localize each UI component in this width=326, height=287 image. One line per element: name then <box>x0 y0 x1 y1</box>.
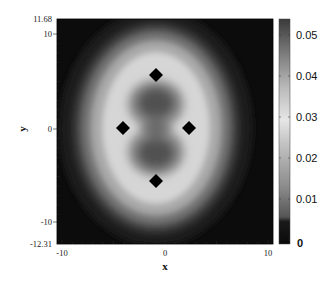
y-tick-label-zero: 0 <box>48 124 52 134</box>
y-tick-label-max: 11.68 <box>33 14 52 24</box>
colorbar-label-0.04: 0.04 <box>296 70 317 82</box>
x-axis-label: x <box>162 260 168 272</box>
colorbar-gradient <box>279 19 290 244</box>
x-tick-label-zero: 0 <box>163 248 167 258</box>
y-tick-label-10: 10 <box>44 29 53 39</box>
colorbar-label-0.05: 0.05 <box>296 29 317 41</box>
x-tick-label-right: 10 <box>264 248 273 258</box>
colorbar: 0.05 0.04 0.03 0.02 0.01 0 <box>279 19 317 249</box>
y-tick-label-min: -12.31 <box>30 239 52 249</box>
y-tick-label-neg10: -10 <box>41 217 52 227</box>
colorbar-label-0.01: 0.01 <box>296 193 317 205</box>
x-tick-label-left: -10 <box>56 248 67 258</box>
colorbar-label-0.03: 0.03 <box>296 111 317 123</box>
plot-area <box>57 10 273 246</box>
y-axis-label: y <box>16 126 28 132</box>
contour-figure: -10 0 10 x 11.68 10 0 -10 -12.31 y <box>0 0 326 287</box>
colorbar-label-0: 0 <box>297 237 303 249</box>
colorbar-label-0.02: 0.02 <box>296 152 317 164</box>
